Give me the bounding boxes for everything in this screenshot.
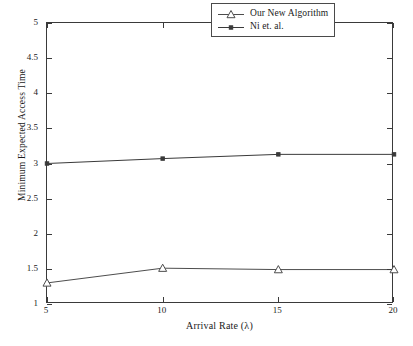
legend-item-label: Our New Algorithm [250, 7, 328, 20]
y-axis-tick-label: 1.5 [27, 263, 42, 273]
data-point-marker [392, 153, 395, 156]
x-axis-tick [393, 297, 394, 302]
y-axis-tick-label: 1 [34, 298, 43, 308]
plot-area [46, 22, 393, 303]
series-1 [43, 264, 398, 286]
y-axis-tick-label: 3 [34, 158, 43, 168]
legend-item: Our New Algorithm [216, 7, 328, 20]
y-axis-tick [47, 234, 52, 235]
triangle-marker-icon [216, 7, 246, 20]
x-axis-tick-labels: 5101520 [46, 305, 393, 319]
x-axis-tick [47, 297, 48, 302]
x-axis-title: Arrival Rate (λ) [46, 320, 393, 331]
y-axis-tick-label: 3.5 [27, 122, 42, 132]
y-axis-tick [387, 58, 392, 59]
data-point-marker [161, 157, 164, 160]
x-axis-tick-label: 20 [389, 305, 398, 316]
y-axis-tick [47, 199, 52, 200]
y-axis-tick [47, 93, 52, 94]
x-axis-tick [47, 23, 48, 28]
legend-item: Ni et. al. [216, 20, 328, 33]
y-axis-tick [387, 199, 392, 200]
x-axis-tick [278, 297, 279, 302]
x-axis-tick [163, 297, 164, 302]
chart-legend: Our New AlgorithmNi et. al. [211, 3, 335, 37]
chart-figure: 11.522.533.544.55 Minimum Expected Acces… [0, 0, 413, 346]
y-axis-tick [387, 234, 392, 235]
x-axis-tick-label: 10 [157, 305, 166, 316]
series-layer [47, 23, 394, 304]
square-marker-icon [216, 20, 246, 33]
y-axis-tick [387, 164, 392, 165]
legend-item-label: Ni et. al. [250, 20, 284, 33]
x-axis-tick [163, 23, 164, 28]
y-axis-tick [387, 93, 392, 94]
series-line [47, 154, 394, 163]
y-axis-title: Minimum Expected Access Time [17, 45, 27, 225]
y-axis-tick [387, 128, 392, 129]
x-axis-tick-label: 5 [44, 305, 49, 316]
series-2 [45, 153, 395, 166]
series-line [47, 268, 394, 283]
y-axis-tick-label: 2 [34, 228, 43, 238]
y-axis-tick [47, 58, 52, 59]
y-axis-tick-label: 4 [34, 87, 43, 97]
y-axis-tick [47, 128, 52, 129]
x-axis-tick-label: 15 [273, 305, 282, 316]
y-axis-tick-label: 2.5 [27, 193, 42, 203]
x-axis-tick [393, 23, 394, 28]
y-axis-tick [47, 164, 52, 165]
y-axis-tick [387, 269, 392, 270]
y-axis-tick [387, 23, 392, 24]
y-axis-tick-label: 4.5 [27, 52, 42, 62]
data-point-marker [277, 153, 280, 156]
y-axis-tick-label: 5 [34, 17, 43, 27]
y-axis-tick [47, 269, 52, 270]
